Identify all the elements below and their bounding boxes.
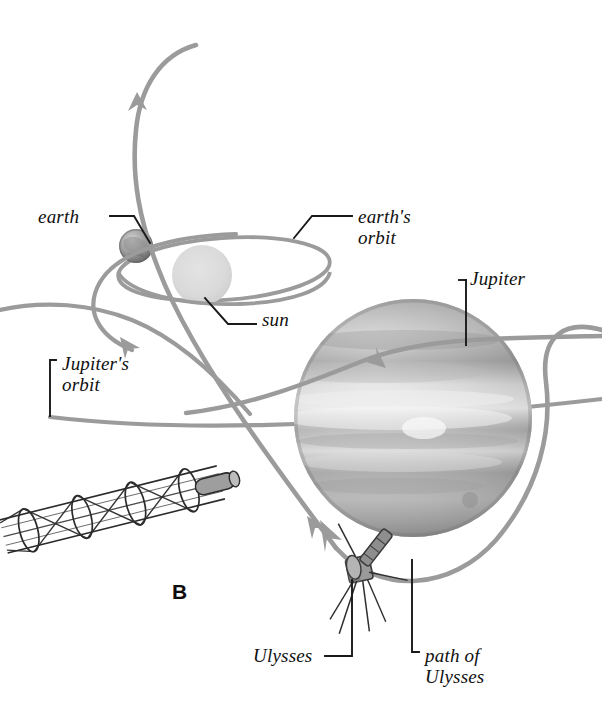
label-jupiter: Jupiter: [470, 268, 525, 289]
leader-path-of-ulysses: [412, 560, 419, 652]
label-path-of-ulysses: path of Ulysses: [425, 645, 484, 687]
leader-jupiters-orbit: [50, 360, 56, 416]
label-ulysses: Ulysses: [253, 645, 312, 666]
label-sun: sun: [262, 309, 289, 330]
label-earths-orbit: earth's orbit: [358, 206, 411, 248]
ulysses-trajectory-figure: earth earth's orbit Jupiter sun Jupiter'…: [0, 0, 602, 723]
leader-ulysses: [325, 580, 352, 656]
leader-earths-orbit: [294, 216, 352, 238]
panel-letter-b: B: [172, 580, 187, 604]
label-earth: earth: [38, 206, 79, 227]
jupiter-body: [276, 299, 532, 537]
label-jupiters-orbit: Jupiter's orbit: [62, 353, 129, 395]
sun-body: [172, 245, 232, 305]
truss-boom-illustration: [0, 456, 245, 557]
